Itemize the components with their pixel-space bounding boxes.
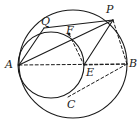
point-label-C: C — [67, 99, 75, 110]
point-label-F: F — [66, 25, 74, 36]
segment-Q-P — [44, 20, 113, 28]
segment-P-B — [113, 20, 127, 64]
point-label-E: E — [86, 67, 94, 78]
segment-C-B — [68, 64, 127, 97]
vertex-dot-a — [18, 64, 20, 66]
geometry-figure: A B C E F P Q — [0, 0, 140, 130]
segment-F-E — [69, 34, 84, 65]
point-label-B: B — [129, 58, 137, 69]
point-label-P: P — [106, 4, 113, 15]
point-label-A: A — [5, 59, 13, 70]
point-label-Q: Q — [41, 16, 50, 27]
